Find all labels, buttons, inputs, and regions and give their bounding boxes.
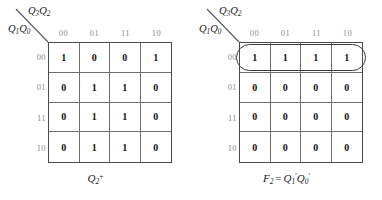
kmap-cell: 1 — [110, 132, 141, 162]
kmap-cell: 0 — [271, 132, 302, 162]
kmap-cell: 1 — [301, 43, 332, 73]
row-header: 11 — [215, 103, 237, 133]
row-var-q1-base: Q — [8, 23, 16, 34]
kmap-caption-left: Q2+ — [0, 172, 191, 186]
kmap-cell: 0 — [301, 73, 332, 103]
col-var-q2-base: Q — [230, 5, 238, 16]
kmap-cell: 0 — [301, 103, 332, 133]
column-header: 01 — [79, 26, 110, 40]
caption-sup: + — [99, 172, 103, 181]
kmap-cell: 0 — [141, 73, 172, 103]
row-headers-left: 00 01 11 10 — [24, 42, 46, 163]
kmap-cell: 0 — [141, 132, 172, 162]
kmap-cell: 0 — [240, 73, 271, 103]
column-header: 00 — [239, 26, 270, 40]
kmap-cell: 0 — [240, 103, 271, 133]
row-header: 00 — [215, 42, 237, 72]
column-headers-left: 00 01 11 10 — [48, 26, 172, 40]
kmap-cell: 0 — [80, 43, 111, 73]
column-header: 00 — [48, 26, 79, 40]
column-variable-label-left: Q3Q2 — [28, 5, 50, 18]
column-variable-label-right: Q3Q2 — [219, 5, 241, 18]
kmap-cell: 1 — [110, 103, 141, 133]
kmap-cell: 1 — [332, 43, 363, 73]
row-headers-right: 00 01 11 10 — [215, 42, 237, 163]
kmap-cell: 1 — [80, 73, 111, 103]
kmap-grid-left: 1 0 0 1 0 1 1 0 0 1 1 0 0 1 1 0 — [48, 42, 172, 163]
column-header: 11 — [110, 26, 141, 40]
caption-term-prime: ′ — [308, 172, 310, 181]
kmap-grid-right: 1 1 1 1 0 0 0 0 0 0 0 0 0 0 0 0 — [239, 42, 363, 163]
kmap-cell: 0 — [240, 132, 271, 162]
col-var-q3-base: Q — [219, 5, 227, 16]
column-header: 11 — [301, 26, 332, 40]
column-header: 10 — [332, 26, 363, 40]
kmap-panel-f2: Q1Q0 Q3Q2 00 01 11 10 00 01 11 10 1 1 1 … — [191, 0, 382, 200]
kmap-cell: 1 — [80, 103, 111, 133]
kmap-cell: 0 — [141, 103, 172, 133]
kmap-cell: 1 — [271, 43, 302, 73]
col-var-q2-sub: 2 — [238, 10, 242, 18]
kmap-cell: 1 — [141, 43, 172, 73]
row-header: 01 — [215, 72, 237, 102]
kmap-cell: 1 — [80, 132, 111, 162]
row-var-q0-base: Q — [19, 23, 27, 34]
col-var-q2-sub: 2 — [47, 10, 51, 18]
kmap-cell: 0 — [271, 103, 302, 133]
kmap-cell: 0 — [110, 43, 141, 73]
kmap-cell: 1 — [110, 73, 141, 103]
col-var-q3-base: Q — [28, 5, 36, 16]
caption-equals: = — [273, 172, 283, 184]
row-header: 01 — [24, 72, 46, 102]
kmap-caption-right: F2=Q1′Q0′ — [191, 172, 382, 186]
kmap-cell: 1 — [49, 43, 80, 73]
kmap-cell: 0 — [332, 103, 363, 133]
row-header: 10 — [215, 133, 237, 163]
kmap-cell: 0 — [49, 73, 80, 103]
column-headers-right: 00 01 11 10 — [239, 26, 363, 40]
row-var-q0-base: Q — [210, 23, 218, 34]
row-header: 11 — [24, 103, 46, 133]
kmap-panel-q2-next: Q1Q0 Q3Q2 00 01 11 10 00 01 11 10 1 0 0 … — [0, 0, 191, 200]
row-variable-label-right: Q1Q0 — [199, 23, 221, 36]
caption-base: Q — [88, 172, 96, 184]
kmap-cell: 0 — [301, 132, 332, 162]
caption-term-base: Q — [297, 172, 305, 184]
kmap-cell: 0 — [332, 132, 363, 162]
kmap-cell: 0 — [332, 73, 363, 103]
col-var-q2-base: Q — [39, 5, 47, 16]
kmap-cell: 0 — [271, 73, 302, 103]
row-header: 00 — [24, 42, 46, 72]
caption-term-base: Q — [284, 172, 292, 184]
row-var-q0-sub: 0 — [27, 28, 31, 36]
kmap-cell: 0 — [49, 103, 80, 133]
caption-base: F — [263, 172, 270, 184]
row-variable-label-left: Q1Q0 — [8, 23, 30, 36]
row-header: 10 — [24, 133, 46, 163]
kmap-figure: Q1Q0 Q3Q2 00 01 11 10 00 01 11 10 1 0 0 … — [0, 0, 382, 200]
kmap-cell: 1 — [240, 43, 271, 73]
row-var-q0-sub: 0 — [218, 28, 222, 36]
kmap-cell: 0 — [49, 132, 80, 162]
column-header: 10 — [141, 26, 172, 40]
row-var-q1-base: Q — [199, 23, 207, 34]
column-header: 01 — [270, 26, 301, 40]
